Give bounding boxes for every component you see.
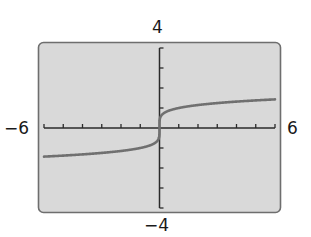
graph-screen [0, 0, 311, 237]
